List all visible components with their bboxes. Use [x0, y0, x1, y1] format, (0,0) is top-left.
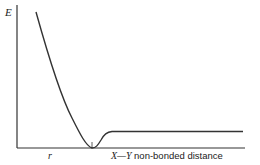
energy-curve	[36, 12, 243, 148]
chart-canvas	[0, 0, 260, 165]
x-axis-text: non-bonded distance	[134, 150, 223, 161]
x-axis-label: X—Y non-bonded distance	[111, 150, 223, 161]
r-label: r	[48, 150, 52, 161]
y-axis-label: E	[5, 6, 12, 18]
x-axis-italic: X—Y	[111, 150, 132, 161]
